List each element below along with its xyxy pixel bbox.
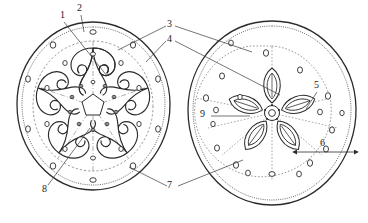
technical-drawing-svg [0,0,368,223]
callout-label-1: 1 [60,10,65,20]
callout-label-6: 6 [320,138,325,148]
callout-label-7: 7 [167,180,172,190]
right-disc [188,21,356,205]
right-disc-hub-inner [269,110,276,117]
callout-label-4: 4 [167,34,172,44]
left-disc [17,22,170,190]
callout-label-3: 3 [167,19,172,29]
callout-label-5: 5 [314,80,319,90]
callout-label-9: 9 [200,109,205,119]
figure-canvas: 1 2 3 4 5 6 7 8 9 [0,0,368,223]
callout-label-2: 2 [77,3,82,13]
callout-label-8: 8 [42,184,47,194]
